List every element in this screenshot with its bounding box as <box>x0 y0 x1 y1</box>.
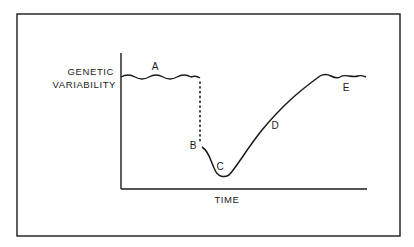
x-axis-label: TIME <box>214 194 239 205</box>
genetic-bottleneck-diagram: GENETIC VARIABILITY TIME A B C D E <box>0 0 414 247</box>
point-label-b: B <box>190 140 197 151</box>
y-axis-label-line1: GENETIC <box>68 66 114 77</box>
curve-segment-e <box>320 75 366 78</box>
point-label-a: A <box>152 61 159 72</box>
point-label-e: E <box>343 82 350 93</box>
curve-segment-a <box>121 75 200 79</box>
y-axis-label-line2: VARIABILITY <box>53 79 117 90</box>
outer-frame <box>17 14 400 236</box>
point-label-c: C <box>216 161 223 172</box>
point-label-d: D <box>271 120 278 131</box>
